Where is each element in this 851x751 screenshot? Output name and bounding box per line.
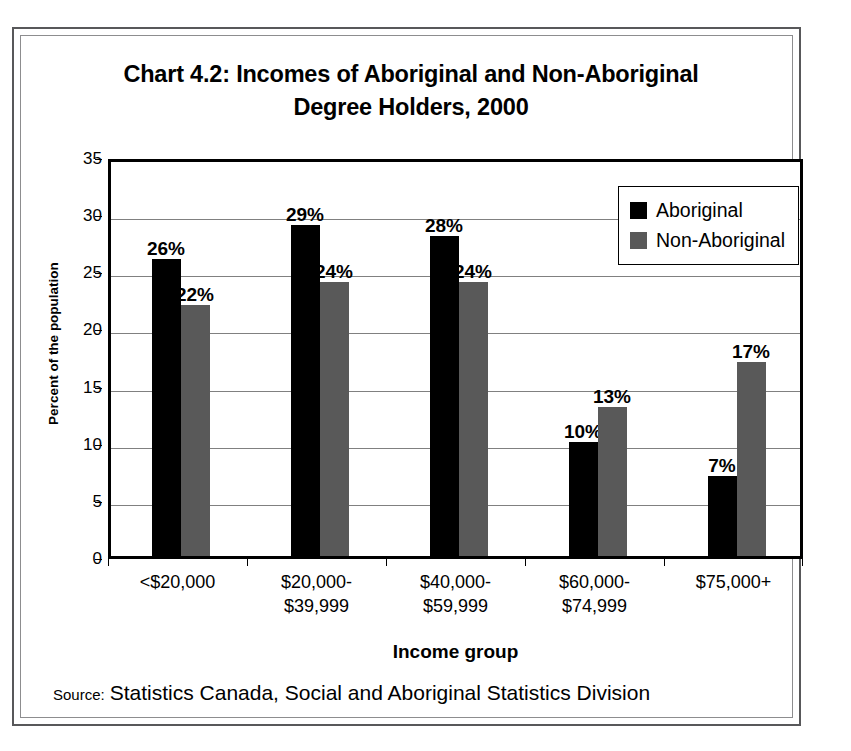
figure-inner-frame: Chart 4.2: Incomes of Aboriginal and Non… <box>20 35 793 718</box>
bar-value-label: 24% <box>315 261 353 283</box>
x-axis-tick-mark <box>247 559 248 566</box>
x-axis-tick-mark <box>386 559 387 566</box>
bar-value-label: 13% <box>593 386 631 408</box>
chart-title: Chart 4.2: Incomes of Aboriginal and Non… <box>61 58 761 124</box>
chart-title-line-2: Degree Holders, 2000 <box>61 91 761 124</box>
chart-title-line-1: Chart 4.2: Incomes of Aboriginal and Non… <box>61 58 761 91</box>
y-axis-tick-mark <box>95 559 102 560</box>
legend-label: Aboriginal <box>656 199 743 222</box>
bar-non-aboriginal <box>181 305 210 556</box>
source-label: Source: <box>53 686 105 703</box>
y-axis-tick-labels: 35302520151050 <box>56 159 102 559</box>
bar-aboriginal <box>430 236 459 556</box>
bar-value-label: 26% <box>147 238 185 260</box>
x-axis-category-line: $74,999 <box>510 594 680 618</box>
bar-value-label: 22% <box>176 284 214 306</box>
y-axis-tick-mark <box>95 216 102 217</box>
chart-legend: AboriginalNon-Aboriginal <box>618 186 799 265</box>
bar-aboriginal <box>708 476 737 556</box>
bar-value-label: 28% <box>425 215 463 237</box>
x-axis-tick-mark <box>802 559 803 566</box>
source-text: Statistics Canada, Social and Aboriginal… <box>110 681 650 705</box>
y-axis-tick-mark <box>95 273 102 274</box>
x-axis-tick-labels: <$20,000$20,000-$39,999$40,000-$59,999$6… <box>108 570 803 630</box>
y-axis-tick-mark <box>95 445 102 446</box>
x-axis-tick-mark <box>525 559 526 566</box>
legend-item: Non-Aboriginal <box>630 225 785 255</box>
bar-value-label: 24% <box>454 261 492 283</box>
y-axis-tick-mark <box>95 502 102 503</box>
y-axis-tick-mark <box>95 330 102 331</box>
legend-label: Non-Aboriginal <box>656 229 785 252</box>
bar-non-aboriginal <box>737 362 766 556</box>
bar-value-label: 7% <box>708 455 735 477</box>
y-axis-tick-mark <box>95 159 102 160</box>
x-axis-tick-mark <box>664 559 665 566</box>
legend-swatch-icon <box>630 232 647 249</box>
figure-outer-frame: Chart 4.2: Incomes of Aboriginal and Non… <box>12 27 801 726</box>
x-axis-ticks <box>108 559 803 567</box>
x-axis-category-label: $75,000+ <box>649 570 819 594</box>
legend-item: Aboriginal <box>630 195 785 225</box>
bar-non-aboriginal <box>320 282 349 556</box>
bar-value-label: 29% <box>286 204 324 226</box>
bar-value-label: 17% <box>732 341 770 363</box>
x-axis-tick-mark <box>108 559 109 566</box>
x-axis-category-line: $75,000+ <box>649 570 819 594</box>
legend-swatch-icon <box>630 202 647 219</box>
bar-non-aboriginal <box>598 407 627 556</box>
x-axis-title: Income group <box>108 641 803 663</box>
source-note: Source: Statistics Canada, Social and Ab… <box>53 681 650 705</box>
bar-value-label: 10% <box>564 421 602 443</box>
bar-aboriginal <box>569 442 598 556</box>
bar-non-aboriginal <box>459 282 488 556</box>
y-axis-tick-mark <box>95 388 102 389</box>
